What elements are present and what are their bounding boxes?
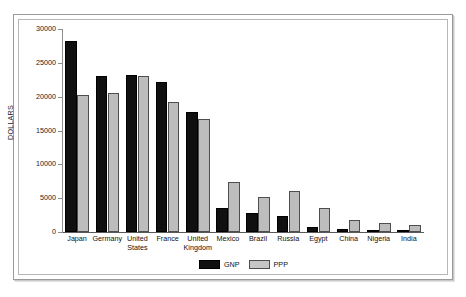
x-axis-label-mexico: Mexico [213,234,243,243]
y-axis-tick [58,198,63,199]
chart-legend: GNP PPP [199,260,288,269]
bar-gnp-india [397,230,409,232]
bar-gnp-germany [96,76,108,232]
x-axis-label-nigeria: Nigeria [364,234,394,243]
bar-ppp-egypt [319,208,331,232]
y-axis-tick-label: 5000 [10,194,56,202]
legend-entry-ppp: PPP [249,260,288,269]
y-axis-tick-label: 20000 [10,93,56,101]
y-axis-tick-label-text: 15000 [12,127,56,135]
bar-ppp-russia [289,191,301,232]
y-axis-tick-label-text: 5000 [12,194,56,202]
bar-ppp-germany [108,93,120,232]
bar-gnp-china [337,229,349,232]
bar-ppp-brazil [258,197,270,232]
bar-ppp-united-kingdom [198,119,210,232]
bar-ppp-mexico [228,182,240,232]
y-axis-tick [58,97,63,98]
bar-gnp-united-states [126,75,138,232]
bar-gnp-mexico [216,208,228,232]
y-axis-tick-label-text: 25000 [12,59,56,67]
y-axis-tick-label: 15000 [10,127,56,135]
bar-chart-plot-area: DOLLARS 300002500020000150001000050000 J… [0,0,466,297]
legend-entry-gnp: GNP [199,260,240,269]
x-axis-label-china: China [334,234,364,243]
x-axis-label-russia: Russia [273,234,303,243]
x-axis-label-france: France [153,234,183,243]
x-axis-label-united-states: United States [122,234,152,252]
y-axis-tick-label-text: 20000 [12,93,56,101]
y-axis-tick-label: 25000 [10,59,56,67]
y-axis-tick-label: 10000 [10,160,56,168]
y-axis-tick-label-text: 10000 [12,160,56,168]
x-axis-label-germany: Germany [92,234,122,243]
y-axis-tick [58,63,63,64]
x-axis-label-india: India [394,234,424,243]
bar-gnp-japan [65,41,77,232]
y-axis-tick [58,164,63,165]
bar-ppp-japan [77,95,89,232]
bar-gnp-egypt [307,227,319,232]
bar-ppp-united-states [138,76,150,232]
bar-gnp-france [156,82,168,232]
bar-gnp-nigeria [367,230,379,232]
bar-ppp-china [349,220,361,232]
x-axis-label-egypt: Egypt [303,234,333,243]
bar-ppp-france [168,102,180,232]
y-axis-tick [58,29,63,30]
x-axis-label-brazil: Brazil [243,234,273,243]
y-axis-tick-label-text: 0 [12,228,56,236]
bar-ppp-india [409,225,421,232]
x-axis-label-japan: Japan [62,234,92,243]
bar-gnp-united-kingdom [186,112,198,232]
legend-swatch-gnp [199,260,220,269]
y-axis-title: DOLLARS [6,93,15,153]
legend-swatch-ppp [249,260,270,269]
y-axis-tick [58,131,63,132]
y-axis-tick-label-text: 30000 [12,25,56,33]
bar-gnp-russia [277,216,289,232]
legend-label-ppp: PPP [274,260,288,269]
legend-label-gnp: GNP [224,260,240,269]
bar-gnp-brazil [246,213,258,232]
x-axis-label-united-kingdom: United Kingdom [183,234,213,252]
y-axis-tick [58,232,63,233]
y-axis-tick-label: 30000 [10,25,56,33]
bar-ppp-nigeria [379,223,391,232]
y-axis-tick-label: 0 [10,228,56,236]
